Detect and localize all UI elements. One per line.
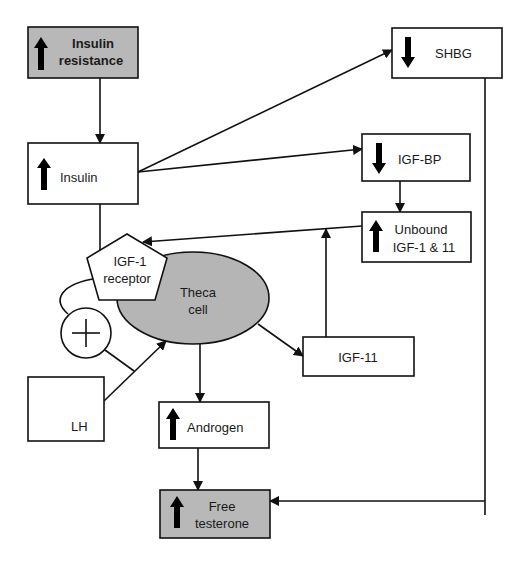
node-lh: LH — [28, 377, 104, 441]
node-free-testerone: Free testerone — [160, 490, 270, 538]
pcos-pathway-diagram: Insulin resistance Insulin SHBG IGF-BP U… — [0, 0, 528, 562]
node-label: LH — [71, 419, 88, 434]
node-label-line2: cell — [188, 302, 208, 317]
node-insulin-resistance: Insulin resistance — [28, 27, 138, 78]
node-unbound-igf: Unbound IGF-1 & 11 — [362, 212, 471, 262]
edge-insulin-to-shbg — [138, 50, 392, 172]
node-label: IGF-11 — [338, 350, 378, 365]
node-igf-bp: IGF-BP — [362, 134, 470, 181]
node-plus-synergy — [61, 308, 111, 358]
node-label-line1: Theca — [180, 285, 217, 300]
node-label-line1: IGF-1 — [113, 254, 146, 269]
node-androgen: Androgen — [159, 402, 269, 448]
node-label-line2: resistance — [59, 53, 123, 68]
node-shbg: SHBG — [392, 28, 502, 78]
edge-unbound-to-receptor — [143, 226, 362, 242]
edge-theca-to-igf11 — [258, 324, 303, 356]
node-label: Androgen — [187, 420, 243, 435]
edge-insulin-to-igfbp — [138, 149, 362, 172]
node-label: SHBG — [435, 46, 472, 61]
node-igf1-receptor: IGF-1 receptor — [87, 234, 167, 300]
node-igf11: IGF-11 — [303, 337, 414, 376]
node-label: Insulin — [60, 170, 98, 185]
node-label-line1: Insulin — [72, 36, 114, 51]
node-label-line2: testerone — [195, 516, 249, 531]
edge-plus-to-lh-line — [105, 350, 134, 371]
node-label-line2: IGF-1 & 11 — [393, 240, 456, 255]
node-insulin: Insulin — [28, 143, 138, 204]
node-label-line1: Free — [209, 499, 236, 514]
edge-lh-to-theca — [104, 341, 166, 401]
node-label: IGF-BP — [398, 152, 441, 167]
node-label-line1: Unbound — [395, 222, 448, 237]
node-label-line2: receptor — [103, 271, 151, 286]
